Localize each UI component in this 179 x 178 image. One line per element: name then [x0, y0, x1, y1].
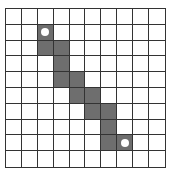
grid-cell — [22, 120, 38, 136]
grid-cell — [70, 25, 86, 41]
grid-cell — [6, 135, 22, 151]
grid-cell — [85, 151, 101, 167]
grid-cell — [70, 56, 86, 72]
grid-cell — [133, 135, 149, 151]
grid-cell — [54, 25, 70, 41]
grid-cell — [117, 120, 133, 136]
grid-cell — [22, 151, 38, 167]
grid-cell — [133, 151, 149, 167]
grid-cell — [22, 41, 38, 57]
shaded-cell — [70, 88, 86, 104]
grid-cell — [38, 135, 54, 151]
grid-cell — [149, 9, 165, 25]
end-marker-circle-icon — [121, 139, 129, 147]
grid-cell — [149, 41, 165, 57]
grid-cell — [117, 151, 133, 167]
grid-cell — [22, 72, 38, 88]
grid-cell — [133, 104, 149, 120]
grid-cell — [85, 72, 101, 88]
grid-cell — [6, 56, 22, 72]
grid-cell — [149, 88, 165, 104]
shaded-cell — [38, 25, 54, 41]
grid-cell — [149, 25, 165, 41]
grid-cell — [70, 151, 86, 167]
grid-cell — [6, 120, 22, 136]
grid-cell — [85, 9, 101, 25]
grid-cell — [101, 41, 117, 57]
grid-cell — [101, 9, 117, 25]
grid-cell — [149, 135, 165, 151]
grid-cell — [101, 72, 117, 88]
grid-cell — [54, 120, 70, 136]
grid-cell — [70, 104, 86, 120]
grid-cell — [117, 104, 133, 120]
shaded-cell — [85, 88, 101, 104]
shaded-cell — [117, 135, 133, 151]
shaded-cell — [70, 72, 86, 88]
grid-cell — [85, 56, 101, 72]
grid-cell — [70, 9, 86, 25]
grid-cell — [22, 135, 38, 151]
grid-cell — [133, 72, 149, 88]
grid-cell — [38, 104, 54, 120]
grid-cell — [38, 151, 54, 167]
grid-cell — [133, 25, 149, 41]
grid-cell — [22, 88, 38, 104]
grid-cell — [54, 104, 70, 120]
grid-cell — [6, 104, 22, 120]
shaded-cell — [85, 104, 101, 120]
grid-cell — [38, 56, 54, 72]
grid-cell — [22, 25, 38, 41]
grid-cell — [6, 41, 22, 57]
grid-cell — [38, 88, 54, 104]
grid-cell — [38, 9, 54, 25]
shaded-cell — [101, 120, 117, 136]
grid-cell — [6, 72, 22, 88]
shaded-cell — [101, 135, 117, 151]
grid-cell — [70, 41, 86, 57]
grid-cell — [54, 9, 70, 25]
grid-cell — [117, 56, 133, 72]
shaded-cell — [101, 104, 117, 120]
grid-cell — [149, 56, 165, 72]
grid-cell — [85, 25, 101, 41]
grid-cell — [22, 104, 38, 120]
grid-cell — [133, 9, 149, 25]
grid-cell — [70, 120, 86, 136]
grid-cell — [149, 72, 165, 88]
grid-cell — [38, 120, 54, 136]
grid-cell — [70, 135, 86, 151]
grid-cell — [38, 72, 54, 88]
grid-cell — [101, 56, 117, 72]
start-marker-circle-icon — [41, 28, 49, 36]
grid-cell — [85, 135, 101, 151]
grid-cell — [101, 25, 117, 41]
grid-cell — [133, 41, 149, 57]
grid-cell — [149, 104, 165, 120]
grid-cell — [54, 135, 70, 151]
grid-cell — [101, 151, 117, 167]
grid-cell — [22, 9, 38, 25]
grid-cell — [85, 120, 101, 136]
grid-cell — [133, 88, 149, 104]
shaded-cell — [54, 72, 70, 88]
grid-cell — [133, 120, 149, 136]
pixel-grid — [5, 8, 166, 168]
shaded-cell — [54, 41, 70, 57]
grid-cell — [117, 9, 133, 25]
grid-cell — [117, 72, 133, 88]
grid-cell — [6, 151, 22, 167]
grid-cell — [133, 56, 149, 72]
shaded-cell — [54, 56, 70, 72]
grid-cell — [117, 88, 133, 104]
grid-cell — [101, 88, 117, 104]
grid-cell — [85, 41, 101, 57]
grid-cell — [6, 88, 22, 104]
grid-cell — [22, 56, 38, 72]
grid-cell — [117, 41, 133, 57]
grid-cell — [149, 120, 165, 136]
grid-cell — [117, 25, 133, 41]
shaded-cell — [38, 41, 54, 57]
grid-cell — [6, 25, 22, 41]
grid-cell — [54, 151, 70, 167]
